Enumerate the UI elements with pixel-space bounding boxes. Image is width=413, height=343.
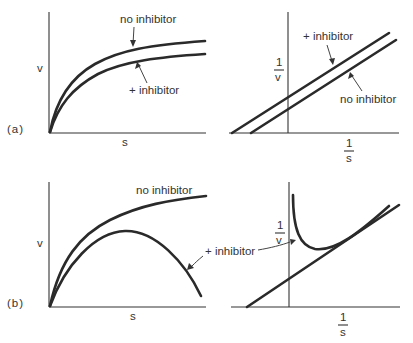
- x-axis-label-denominator: s: [340, 326, 346, 338]
- y-axis-label: v: [37, 237, 43, 249]
- y-axis-label: v: [37, 62, 43, 74]
- arrow-icon: [135, 62, 147, 83]
- arrow-icon: [130, 27, 136, 47]
- arrow-icon: [187, 256, 203, 270]
- x-axis-label: s: [130, 310, 136, 322]
- panel-a-reciprocal-plot: 1 v 1 s + inhibitor no inhibitor: [229, 12, 399, 164]
- panel-b-reciprocal-plot: 1 v 1 s + inhibitor: [187, 182, 400, 338]
- line-no-inhibitor: [247, 205, 399, 307]
- x-axis-label-numerator: 1: [340, 311, 346, 323]
- panel-b-direct-plot: v s (b) no inhibitor: [7, 182, 206, 322]
- curve-no-inhibitor: [50, 196, 206, 306]
- y-axis-label-numerator: 1: [277, 219, 283, 231]
- label-plus-inhibitor: + inhibitor: [303, 30, 353, 42]
- line-plus-inhibitor: [232, 33, 389, 133]
- y-axis-label-denominator: v: [275, 71, 281, 83]
- arrow-icon: [348, 72, 362, 91]
- panel-label-b: (b): [7, 297, 24, 309]
- label-no-inhibitor: no inhibitor: [136, 184, 192, 196]
- x-axis-label-denominator: s: [346, 152, 352, 164]
- curve-plus-inhibitor: [50, 54, 205, 132]
- y-axis-label-numerator: 1: [276, 56, 282, 68]
- x-axis-label: s: [122, 136, 128, 148]
- panel-a-direct-plot: v s (a) no inhibitor + inhibitor: [7, 12, 206, 148]
- x-axis-label-numerator: 1: [346, 137, 352, 149]
- panel-label-a: (a): [7, 123, 24, 135]
- label-plus-inhibitor: + inhibitor: [205, 245, 255, 257]
- enzyme-inhibition-figure: v s (a) no inhibitor + inhibitor 1 v 1 s…: [0, 0, 413, 343]
- line-no-inhibitor: [251, 40, 396, 133]
- label-plus-inhibitor: + inhibitor: [129, 84, 179, 96]
- arrow-icon: [327, 45, 335, 65]
- label-no-inhibitor: no inhibitor: [340, 93, 396, 105]
- label-no-inhibitor: no inhibitor: [120, 13, 176, 25]
- curve-plus-inhibitor: [50, 231, 201, 306]
- y-axis-label-denominator: v: [276, 234, 282, 246]
